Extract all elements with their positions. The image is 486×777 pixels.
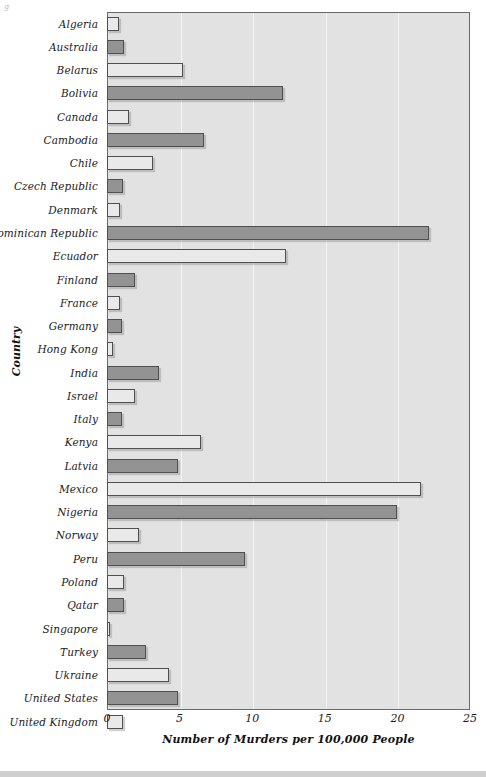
bar-algeria [107, 17, 119, 31]
bar-row [107, 663, 470, 686]
x-axis-tick-5: 5 [176, 712, 183, 725]
y-axis-label-finland: Finland [0, 268, 103, 291]
x-axis-tick-20: 20 [390, 712, 404, 725]
bar-row [107, 524, 470, 547]
x-axis-tick-labels: 0510152025 [107, 712, 470, 732]
bar-italy [107, 412, 122, 426]
bar-row [107, 338, 470, 361]
bar-united-states [107, 691, 178, 705]
bar-qatar [107, 598, 124, 612]
y-axis-label-australia: Australia [0, 35, 103, 58]
bar-poland [107, 575, 124, 589]
y-axis-label-norway: Norway [0, 524, 103, 547]
bar-row [107, 361, 470, 384]
y-axis-label-bolivia: Bolivia [0, 82, 103, 105]
y-axis-label-peru: Peru [0, 547, 103, 570]
y-axis-label-czech-republic: Czech Republic [0, 175, 103, 198]
y-axis-label-ecuador: Ecuador [0, 245, 103, 268]
y-axis-label-poland: Poland [0, 570, 103, 593]
y-axis-label-algeria: Algeria [0, 12, 103, 35]
bar-latvia [107, 459, 178, 473]
bar-australia [107, 40, 124, 54]
bar-norway [107, 528, 139, 542]
bar-ukraine [107, 668, 169, 682]
y-axis-label-qatar: Qatar [0, 594, 103, 617]
bar-row [107, 198, 470, 221]
bar-germany [107, 319, 122, 333]
bar-bolivia [107, 86, 283, 100]
bar-row [107, 175, 470, 198]
y-axis-title: Country [10, 312, 23, 392]
bar-canada [107, 110, 129, 124]
bar-row [107, 105, 470, 128]
bar-row [107, 408, 470, 431]
bar-row [107, 221, 470, 244]
bar-row [107, 35, 470, 58]
x-axis-tick-15: 15 [318, 712, 332, 725]
bar-cambodia [107, 133, 204, 147]
y-axis-label-mexico: Mexico [0, 477, 103, 500]
bar-denmark [107, 203, 120, 217]
bar-row [107, 245, 470, 268]
y-axis-label-denmark: Denmark [0, 198, 103, 221]
bar-peru [107, 552, 245, 566]
y-axis-label-singapore: Singapore [0, 617, 103, 640]
bar-row [107, 570, 470, 593]
bar-singapore [107, 622, 110, 636]
bar-row [107, 594, 470, 617]
bar-finland [107, 273, 135, 287]
bar-row [107, 152, 470, 175]
bar-mexico [107, 482, 421, 496]
bar-belarus [107, 63, 183, 77]
bar-ecuador [107, 249, 286, 263]
bar-row [107, 268, 470, 291]
bar-row [107, 640, 470, 663]
bar-czech-republic [107, 179, 123, 193]
bar-row [107, 547, 470, 570]
y-axis-label-latvia: Latvia [0, 454, 103, 477]
bar-row [107, 454, 470, 477]
y-axis-label-italy: Italy [0, 408, 103, 431]
bar-row [107, 431, 470, 454]
bar-row [107, 477, 470, 500]
bar-france [107, 296, 120, 310]
bar-india [107, 366, 159, 380]
x-axis-tick-0: 0 [104, 712, 111, 725]
bar-row [107, 501, 470, 524]
bar-israel [107, 389, 135, 403]
bar-row [107, 59, 470, 82]
murder-rate-bar-chart-figure: g AlgeriaAustraliaBelarusBoliviaCanadaCa… [0, 0, 486, 777]
bars-container [107, 12, 470, 710]
bar-row [107, 82, 470, 105]
y-axis-label-belarus: Belarus [0, 59, 103, 82]
bar-row [107, 617, 470, 640]
y-axis-label-kenya: Kenya [0, 431, 103, 454]
bar-row [107, 314, 470, 337]
bar-row [107, 128, 470, 151]
bar-row [107, 384, 470, 407]
bar-hong-kong [107, 342, 113, 356]
y-axis-label-chile: Chile [0, 152, 103, 175]
y-axis-label-united-kingdom: United Kingdom [0, 710, 103, 733]
bar-turkey [107, 645, 146, 659]
bar-dominican-republic [107, 226, 429, 240]
bar-nigeria [107, 505, 397, 519]
x-axis-title: Number of Murders per 100,000 People [107, 733, 470, 746]
bar-row [107, 291, 470, 314]
bar-row [107, 12, 470, 35]
y-axis-label-turkey: Turkey [0, 640, 103, 663]
y-axis-label-nigeria: Nigeria [0, 501, 103, 524]
y-axis-label-dominican-republic: Dominican Republic [0, 221, 103, 244]
page-edge-shadow [0, 771, 486, 777]
x-axis-tick-10: 10 [245, 712, 259, 725]
bar-row [107, 687, 470, 710]
bar-chile [107, 156, 153, 170]
y-axis-label-canada: Canada [0, 105, 103, 128]
y-axis-label-cambodia: Cambodia [0, 128, 103, 151]
y-axis-label-united-states: United States [0, 687, 103, 710]
bar-kenya [107, 435, 201, 449]
page-corner-mark: g [4, 2, 9, 11]
y-axis-label-ukraine: Ukraine [0, 663, 103, 686]
x-axis-tick-25: 25 [463, 712, 477, 725]
